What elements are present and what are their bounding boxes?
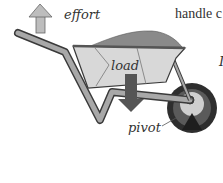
side-text-line-1: handle c [175, 7, 222, 21]
load-label: load [111, 59, 139, 72]
pivot-label: pivot [128, 121, 161, 134]
side-text-line-2: I [219, 55, 223, 68]
wheelbarrow-illustration [0, 0, 223, 183]
effort-label: effort [64, 8, 100, 21]
soil-load [88, 31, 182, 47]
wheelbarrow-lever-diagram: effort load pivot handle c I [0, 0, 223, 183]
effort-arrow-icon [29, 4, 52, 33]
